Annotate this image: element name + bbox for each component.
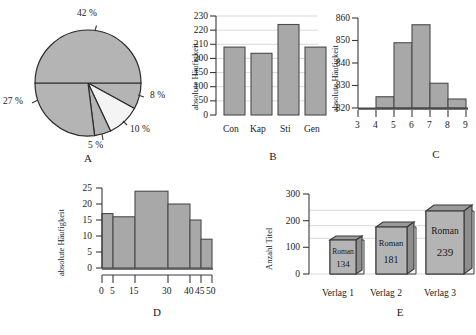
x-tick-label: 45 xyxy=(195,286,205,296)
panel-c-ylabel: absolute Häufigkeit xyxy=(330,45,340,112)
x-tick-label: 3 xyxy=(355,120,360,130)
pie-leader-42 xyxy=(95,26,97,31)
bar-bin-40-45 xyxy=(190,220,201,268)
pie-label-10: 10 % xyxy=(130,124,150,134)
bar-bin-0-5 xyxy=(102,214,113,268)
book-2-value: 181 xyxy=(384,254,399,265)
bar-sti xyxy=(278,25,299,116)
book-2-front xyxy=(376,227,407,274)
pie-slice-42 xyxy=(35,30,141,83)
x-tick-label: 5 xyxy=(391,120,396,130)
panel-caption-e: E xyxy=(390,306,410,318)
y-tick-label: 200 xyxy=(278,216,300,226)
y-tick-label: 200 xyxy=(184,53,208,63)
x-tick-label: 6 xyxy=(409,120,414,130)
panel-e-book-chart: Anzahl Titel Roman 134 Roman xyxy=(252,178,476,335)
book-1-value: 134 xyxy=(336,259,350,269)
book-3-item-label: Roman xyxy=(431,226,459,236)
panel-a-pie-chart: 42 % 8 % 10 % 5 % 27 % A xyxy=(0,0,180,170)
bar-bin-45-50 xyxy=(201,239,212,268)
panel-e-ylabel: Anzahl Titel xyxy=(264,228,274,270)
y-tick-label: 220 xyxy=(184,25,208,35)
y-tick-label: 150 xyxy=(184,67,208,77)
book-verlag-3: Roman 239 xyxy=(426,205,474,274)
y-tick-label: 0 xyxy=(72,263,92,273)
y-tick-label: 300 xyxy=(278,189,300,199)
book-2-item-label: Roman xyxy=(379,238,404,248)
pie-leader-27 xyxy=(32,100,38,103)
x-tick-label-con: Con xyxy=(223,124,239,134)
y-tick-label: 25 xyxy=(72,183,92,193)
panel-b-bar-chart: absolute Häufigkeit 230 220 210 200 150 … xyxy=(180,0,320,170)
bar-bin-5-15 xyxy=(113,217,135,268)
x-tick-label: 5 xyxy=(110,286,115,296)
book-chart-e-svg: Roman 134 Roman 181 Roman 239 xyxy=(252,178,476,335)
pie-label-5: 5 % xyxy=(88,140,103,150)
panel-caption-d: D xyxy=(147,306,167,318)
pie-label-42: 42 % xyxy=(77,8,97,18)
y-tick-label: 15 xyxy=(72,215,92,225)
book-1-spine xyxy=(356,236,362,274)
panel-d-histogram: absolute Häufigkeit 25 20 15 10 5 0 0 5 … xyxy=(30,178,260,335)
x-tick-label: 8 xyxy=(445,120,450,130)
bar-kap xyxy=(251,53,272,115)
x-tick-label: 40 xyxy=(184,286,194,296)
x-tick-label: 50 xyxy=(206,286,216,296)
x-tick-label-verlag-1: Verlag 1 xyxy=(322,288,354,298)
bar-bin-6-7 xyxy=(412,25,430,108)
y-tick-label: 850 xyxy=(324,35,350,45)
x-tick-label: 0 xyxy=(99,286,104,296)
pie-label-27: 27 % xyxy=(3,96,23,106)
x-tick-label-verlag-3: Verlag 3 xyxy=(424,288,456,298)
y-tick-label: 10 xyxy=(72,231,92,241)
book-2-spine xyxy=(407,222,414,274)
book-verlag-2: Roman 181 xyxy=(376,222,416,274)
panel-caption-c: C xyxy=(426,148,446,160)
pie-label-8: 8 % xyxy=(150,90,165,100)
x-tick-label: 15 xyxy=(129,286,139,296)
y-tick-label: 860 xyxy=(324,13,350,23)
y-tick-label: 840 xyxy=(324,58,350,68)
book-3-value: 239 xyxy=(437,246,454,258)
panel-c-histogram: absolute Häufigkeit 860 850 840 830 820 … xyxy=(318,0,476,170)
x-tick-label: 30 xyxy=(162,286,172,296)
x-tick-label-kap: Kap xyxy=(250,124,266,134)
x-tick-label-sti: Sti xyxy=(280,124,291,134)
pie-slice-27 xyxy=(35,83,95,136)
y-tick-label: 50 xyxy=(184,95,208,105)
panel-caption-a: A xyxy=(78,152,98,164)
y-tick-label: 0 xyxy=(278,269,300,279)
bar-bin-15-30 xyxy=(135,191,168,268)
y-tick-label: 5 xyxy=(72,247,92,257)
book-1-item-label: Roman xyxy=(332,247,354,256)
bar-bin-7-8 xyxy=(430,83,448,108)
book-verlag-1: Roman 134 xyxy=(330,236,364,274)
x-tick-label-verlag-2: Verlag 2 xyxy=(370,288,402,298)
y-tick-label: 100 xyxy=(184,81,208,91)
y-tick-label: 100 xyxy=(278,242,300,252)
y-tick-label: 820 xyxy=(324,103,350,113)
bar-bin-4-5 xyxy=(376,97,394,108)
y-tick-label: 0 xyxy=(184,110,208,120)
y-tick-label: 20 xyxy=(72,199,92,209)
bar-bin-5-6 xyxy=(394,43,412,108)
y-tick-label: 830 xyxy=(324,80,350,90)
y-tick-label: 230 xyxy=(184,11,208,21)
y-tick-label: 210 xyxy=(184,39,208,49)
bar-con xyxy=(224,47,245,115)
panel-d-ylabel: absolute Häufigkeit xyxy=(56,209,66,276)
x-tick-label: 9 xyxy=(463,120,468,130)
bar-bin-8-9 xyxy=(448,99,466,108)
bar-bin-30-40 xyxy=(168,204,190,268)
x-tick-label: 4 xyxy=(373,120,378,130)
panel-caption-b: B xyxy=(263,150,283,162)
book-3-front xyxy=(426,211,464,274)
book-3-spine xyxy=(464,205,472,274)
x-tick-label: 7 xyxy=(427,120,432,130)
